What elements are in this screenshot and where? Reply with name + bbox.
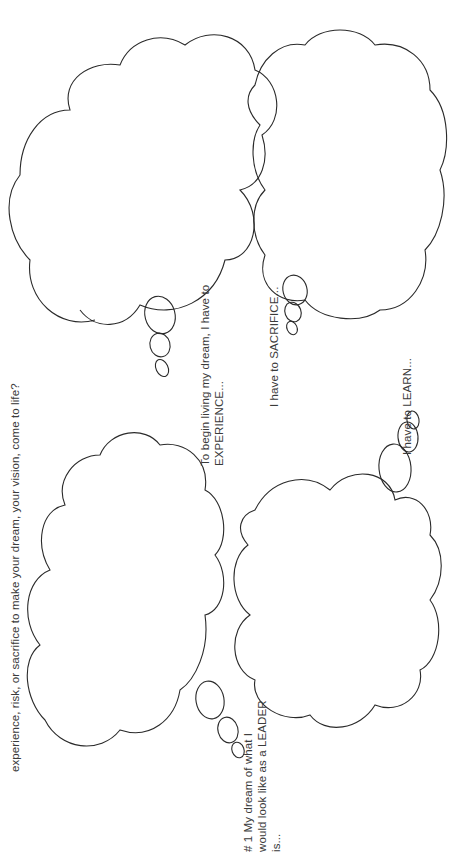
prompt-learn: I have to LEARN... — [400, 358, 414, 455]
prompt-sacrifice: I have to SACRIFICE... — [267, 287, 281, 407]
cloud-experience[interactable] — [9, 35, 277, 379]
question-line-visible: experience, risk, or sacrifice to make y… — [8, 383, 22, 772]
question-text: What will you need to learn, do, or chan… — [0, 383, 22, 772]
cloud-learn[interactable] — [234, 410, 441, 727]
worksheet-page: What will you need to learn, do, or chan… — [0, 0, 452, 856]
prompt-experience: To begin living my dream, I have to EXPE… — [198, 285, 226, 466]
prompt-leader: # 1 My dream of what I would look like a… — [241, 700, 283, 852]
thought-clouds — [0, 0, 452, 856]
cloud-leader[interactable] — [27, 433, 246, 760]
